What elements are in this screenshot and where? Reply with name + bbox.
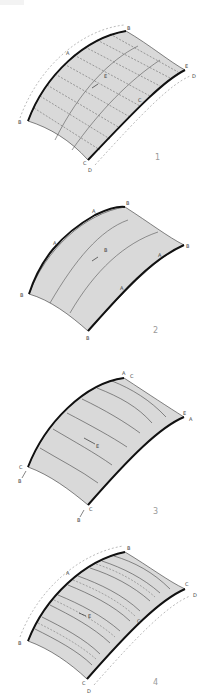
label-b-top: B — [127, 25, 131, 31]
label-a-top: A — [66, 570, 70, 576]
diagram-panel-4: B A B C D C C D E 4 — [0, 525, 206, 698]
label-a-right: A — [158, 252, 162, 258]
label-b-left: B — [18, 119, 22, 125]
label-b-left: B — [18, 640, 22, 646]
label-center: E — [88, 613, 91, 619]
shell-surface-figure-3: A C E A C B C B E 3 — [0, 345, 206, 525]
label-a-top: A — [92, 208, 96, 214]
label-c-bottom: C — [89, 506, 93, 512]
label-b-left: B — [20, 292, 24, 298]
label-b-top: B — [126, 200, 130, 206]
figure-number-1: 1 — [155, 153, 160, 162]
label-a-top: A — [66, 50, 70, 56]
label-c-bottom: C — [83, 160, 87, 166]
label-d-right: D — [192, 73, 196, 79]
label-a-top: A — [122, 370, 126, 376]
label-d-bottom: D — [88, 167, 92, 173]
figure-number-4: 4 — [153, 678, 158, 687]
figure-number-2: 2 — [153, 326, 158, 335]
label-b-right: B — [186, 243, 190, 249]
shell-surface-figure-1: B A B E D C C D E 1 — [0, 0, 206, 175]
label-b-top: B — [127, 545, 131, 551]
label-center: B — [104, 247, 108, 253]
diagram-panel-1: B A B E D C C D E 1 — [0, 0, 206, 175]
label-c-bottom: C — [82, 680, 86, 686]
shell-surface-figure-2: B A A B B A A B B 2 — [0, 175, 206, 345]
label-c-right: C — [185, 581, 189, 587]
label-b-bottom: B — [77, 517, 81, 523]
label-e-right: E — [183, 410, 186, 416]
label-d-right: D — [193, 592, 197, 598]
label-center: E — [96, 443, 99, 449]
label-c-top: C — [130, 373, 134, 379]
diagram-panel-2: B A A B B A A B B 2 — [0, 175, 206, 345]
diagram-panel-3: A C E A C B C B E 3 — [0, 345, 206, 525]
label-e-right: E — [185, 63, 188, 69]
label-b-bottom: B — [86, 335, 90, 341]
label-c-right: C — [138, 97, 142, 103]
label-center: E — [104, 73, 107, 79]
shell-surface-figure-4: B A B C D C C D E 4 — [0, 525, 206, 698]
figure-number-3: 3 — [153, 507, 158, 516]
label-c-left: C — [19, 464, 23, 470]
label-a-lower: A — [120, 285, 124, 291]
label-a-right: A — [189, 416, 193, 422]
label-a-left: A — [53, 240, 57, 246]
label-b-left: B — [18, 478, 22, 484]
label-c-mid: C — [137, 618, 141, 624]
label-d-bottom: D — [87, 688, 91, 694]
